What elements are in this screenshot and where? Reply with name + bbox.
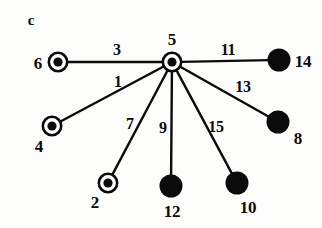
- graph-edge: [176, 70, 232, 175]
- edge-label-7: 7: [126, 116, 134, 132]
- graph-edge: [59, 66, 164, 122]
- edge-label-11: 11: [221, 42, 236, 58]
- graph-node[interactable]: [99, 174, 117, 192]
- solid-node-disc: [268, 49, 291, 72]
- node-label-14: 14: [295, 53, 312, 70]
- panel-label: c: [28, 13, 34, 28]
- graph-node[interactable]: [160, 175, 183, 198]
- edge-label-15: 15: [208, 119, 224, 135]
- ring-node-center-dot: [103, 178, 112, 187]
- graph-node[interactable]: [43, 117, 61, 135]
- node-label-12: 12: [164, 203, 181, 220]
- ring-node-center-dot: [47, 121, 56, 130]
- solid-node-disc: [160, 175, 183, 198]
- node-label-5: 5: [168, 31, 176, 48]
- graph-edge: [171, 71, 172, 177]
- node-label-8: 8: [294, 130, 302, 147]
- graph-node[interactable]: [226, 172, 249, 195]
- solid-node-disc: [226, 172, 249, 195]
- edge-label-1: 1: [114, 74, 122, 90]
- node-label-6: 6: [34, 55, 42, 72]
- node-label-10: 10: [240, 199, 257, 216]
- graph-figure: c 564214812103179151311: [0, 0, 322, 228]
- node-label-4: 4: [35, 138, 43, 155]
- graph-edge: [181, 60, 270, 62]
- graph-node[interactable]: [49, 53, 67, 71]
- graph-node[interactable]: [163, 53, 181, 71]
- edge-label-3: 3: [113, 42, 121, 58]
- solid-node-disc: [267, 111, 290, 134]
- graph-node[interactable]: [268, 49, 291, 72]
- graph-edge: [180, 66, 270, 117]
- ring-node-center-dot: [53, 57, 62, 66]
- node-label-2: 2: [91, 194, 99, 211]
- edge-label-13: 13: [235, 79, 251, 95]
- edge-label-9: 9: [159, 120, 167, 136]
- graph-canvas: [0, 0, 322, 228]
- ring-node-center-dot: [167, 57, 176, 66]
- graph-node[interactable]: [267, 111, 290, 134]
